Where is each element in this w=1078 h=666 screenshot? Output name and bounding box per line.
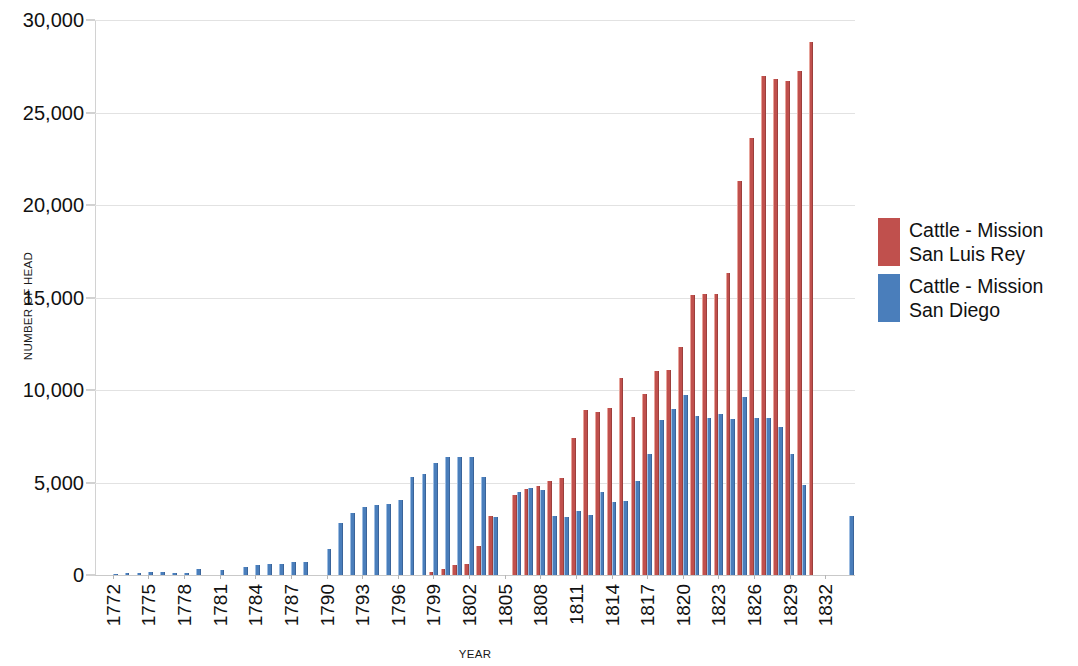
x-tick-label: 1793 [352, 584, 374, 626]
bar [445, 457, 450, 575]
bar [481, 477, 486, 575]
bar [659, 420, 664, 575]
bar [493, 517, 498, 575]
x-tick-label: 1814 [602, 584, 624, 626]
x-tick-label: 1805 [495, 584, 517, 626]
y-tick-label: 25,000 [10, 101, 84, 124]
y-tick-mark [86, 482, 95, 483]
chart-legend: Cattle - Mission San Luis ReyCattle - Mi… [878, 218, 1074, 330]
bar [469, 457, 474, 575]
y-tick-label: 5,000 [10, 471, 84, 494]
bar [742, 397, 747, 575]
bar [184, 573, 189, 575]
x-tick-label: 1790 [317, 584, 339, 626]
bar [172, 573, 177, 575]
bar [410, 477, 415, 575]
x-tick-label: 1799 [423, 584, 445, 626]
bar [683, 395, 688, 575]
bar [279, 564, 284, 575]
x-tick-label: 1808 [530, 584, 552, 626]
x-tick-mark [113, 575, 114, 579]
bar [255, 565, 260, 575]
x-tick-mark [255, 575, 256, 579]
bar [695, 416, 700, 575]
x-tick-mark [184, 575, 185, 579]
y-axis-tick-labels: 05,00010,00015,00020,00025,00030,000 [0, 0, 84, 666]
bar [588, 515, 593, 575]
x-tick-mark [291, 575, 292, 579]
y-tick-mark [86, 297, 95, 298]
bar [148, 572, 153, 575]
bar [517, 492, 522, 575]
bar [552, 516, 557, 575]
bar [220, 570, 225, 575]
x-tick-label: 1772 [103, 584, 125, 626]
bar [790, 454, 795, 575]
x-tick-mark [825, 575, 826, 579]
bar [849, 516, 854, 575]
y-tick-mark [86, 575, 95, 576]
y-tick-mark [86, 390, 95, 391]
legend-swatch-icon [878, 274, 900, 322]
x-tick-label: 1811 [566, 584, 588, 625]
x-axis-title: YEAR [95, 648, 855, 660]
x-tick-mark [327, 575, 328, 579]
y-tick-mark [86, 20, 95, 21]
legend-label: Cattle - Mission San Luis Rey [909, 218, 1043, 266]
bar [730, 419, 735, 575]
x-tick-mark [469, 575, 470, 579]
y-tick-mark [86, 112, 95, 113]
bar [718, 414, 723, 575]
legend-item[interactable]: Cattle - Mission San Luis Rey [878, 218, 1074, 266]
bar [398, 500, 403, 575]
x-tick-mark [754, 575, 755, 579]
bar [125, 573, 130, 575]
bar [457, 457, 462, 575]
bar [243, 567, 248, 575]
bar [778, 427, 783, 575]
bar [267, 564, 272, 575]
bar [433, 463, 438, 575]
bar [160, 572, 165, 575]
legend-label: Cattle - Mission San Diego [909, 274, 1043, 322]
y-tick-label: 20,000 [10, 194, 84, 217]
y-tick-label: 30,000 [10, 9, 84, 32]
bar [291, 562, 296, 575]
y-tick-mark [86, 205, 95, 206]
y-tick-label: 10,000 [10, 379, 84, 402]
bar [623, 501, 628, 575]
x-tick-label: 1781 [210, 584, 232, 626]
x-tick-mark [398, 575, 399, 579]
x-tick-mark [362, 575, 363, 579]
x-tick-mark [540, 575, 541, 579]
x-tick-label: 1823 [708, 584, 730, 626]
bar [362, 507, 367, 575]
bar [303, 562, 308, 575]
bar [327, 549, 332, 575]
gridline [95, 575, 855, 576]
x-tick-label: 1826 [744, 584, 766, 626]
bar [374, 505, 379, 575]
bar [809, 42, 814, 575]
bars-layer [95, 20, 855, 575]
bar [612, 502, 617, 575]
x-tick-mark [612, 575, 613, 579]
x-tick-label: 1796 [388, 584, 410, 626]
x-tick-mark [505, 575, 506, 579]
legend-swatch-icon [878, 218, 900, 266]
legend-item[interactable]: Cattle - Mission San Diego [878, 274, 1074, 322]
bar [350, 513, 355, 575]
y-tick-label: 0 [10, 564, 84, 587]
y-tick-label: 15,000 [10, 286, 84, 309]
bar [647, 454, 652, 575]
plot-area [95, 20, 855, 575]
bar [635, 481, 640, 575]
x-tick-mark [718, 575, 719, 579]
bar [196, 569, 201, 575]
bar [113, 574, 118, 575]
bar [576, 511, 581, 575]
x-tick-label: 1820 [673, 584, 695, 626]
bar [600, 492, 605, 575]
x-tick-mark [790, 575, 791, 579]
x-tick-mark [683, 575, 684, 579]
